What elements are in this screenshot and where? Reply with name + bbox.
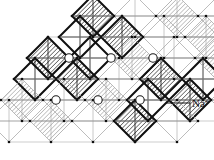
lattice-node-dot [63,78,66,81]
lattice-node-dot [163,57,166,60]
lattice-node-dot [126,99,129,102]
na-ion-circle [65,54,73,62]
crystal-structure-figure: Na+ [0,0,214,160]
lattice-node-dot [131,36,134,39]
lattice-node-dot [47,78,50,81]
lattice-canvas: Na+ [0,0,214,160]
lattice-node-dot [76,57,79,60]
lattice-node-dot [121,57,124,60]
lattice-node-dot [155,15,158,18]
lattice-node-dot [134,141,137,144]
lattice-node-dot [118,57,121,60]
lattice-node-dot [181,78,184,81]
lattice-node-dot [205,57,208,60]
lattice-node-dot [210,99,213,102]
lattice-node-dot [189,120,192,123]
lattice-node-dot [100,36,103,39]
lattice-node-dot [71,15,74,18]
lattice-node-dot [50,141,53,144]
lattice-node-dot [79,15,82,18]
na-ion-circle [136,96,144,104]
lattice-node-dot [176,99,179,102]
lattice-node-dot [176,36,179,39]
lattice-node-dot [139,78,142,81]
lattice-node-dot [184,36,187,39]
lattice-node-dot [92,36,95,39]
lattice-node-dot [21,78,24,81]
lattice-node-dot [13,78,16,81]
lattice-node-dot [168,99,171,102]
lattice-node-dot [34,99,37,102]
lattice-node-dot [58,36,61,39]
lattice-node-dot [176,141,179,144]
lattice-node-dot [29,120,32,123]
na-ion-circle [149,54,157,62]
lattice-node-dot [173,36,176,39]
na-ion-circle [94,96,102,104]
lattice-node-dot [205,15,208,18]
lattice-node-dot [142,36,145,39]
lattice-node-dot [21,120,24,123]
lattice-node-dot [189,78,192,81]
lattice-node-dot [134,36,137,39]
lattice-node-dot [197,15,200,18]
lattice-node-dot [63,120,66,123]
lattice-node-dot [147,120,150,123]
lattice-node-dot [42,99,45,102]
lattice-node-dot [121,15,124,18]
lattice-node-dot [194,57,197,60]
na-symbol-text: Na [192,97,205,109]
lattice-node-dot [76,99,79,102]
lattice-node-dot [113,15,116,18]
lattice-node-dot [163,15,166,18]
lattice-node-dot [8,141,11,144]
lattice-node-dot [84,99,87,102]
lattice-node-dot [47,36,50,39]
lattice-node-dot [131,78,134,81]
na-ion-circle [107,54,115,62]
lattice-node-dot [197,120,200,123]
lattice-node-dot [79,57,82,60]
lattice-node-dot [155,120,158,123]
lattice-node-dot [71,120,74,123]
lattice-node-dot [113,120,116,123]
lattice-node-dot [92,141,95,144]
na-charge-text: + [205,98,209,106]
lattice-node-dot [202,57,205,60]
lattice-node-dot [34,57,37,60]
lattice-node-dot [160,57,163,60]
lattice-node-dot [89,36,92,39]
lattice-node-dot [173,78,176,81]
lattice-node-dot [160,99,163,102]
lattice-node-dot [97,78,100,81]
lattice-node-dot [147,78,150,81]
lattice-node-dot [105,78,108,81]
lattice-node-dot [89,78,92,81]
lattice-node-dot [8,99,11,102]
lattice-node-dot [105,120,108,123]
na-ion-circle [52,96,60,104]
lattice-node-dot [26,57,29,60]
lattice-node-dot [118,99,121,102]
lattice-node-dot [55,78,58,81]
